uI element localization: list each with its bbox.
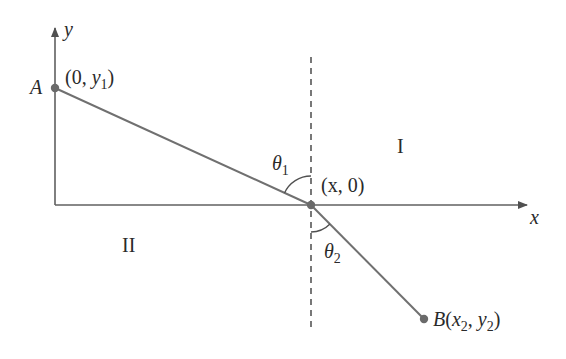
segment-p-b [311,205,424,319]
point-b-label: B(x2, y2) [433,308,500,334]
theta1-arc [285,176,312,193]
point-a-coord: (0, y1) [65,66,114,92]
theta1-label: θ1 [272,152,289,178]
region-i-label: I [397,135,404,157]
point-p-coord: (x, 0) [321,174,364,197]
refraction-diagram: y x A (0, y1) (x, 0) B(x2, y2) θ1 θ2 I I… [0,0,566,359]
y-axis-label: y [62,18,73,41]
theta2-label: θ2 [324,240,341,266]
x-axis-label: x [529,206,539,228]
theta2-arc [311,224,330,232]
point-a [51,84,59,92]
point-p [307,201,315,209]
point-a-label: A [28,76,43,98]
region-ii-label: II [122,234,135,256]
segment-a-p [55,88,311,205]
point-b [420,315,428,323]
